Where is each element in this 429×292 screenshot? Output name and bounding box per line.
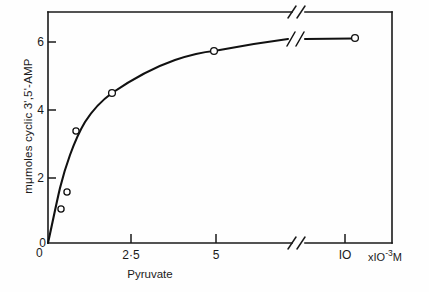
x-units-base: xIO bbox=[368, 251, 385, 263]
curve-break-slash-2 bbox=[296, 32, 304, 46]
x-units-exponent: -3 bbox=[385, 248, 393, 258]
data-point-marker bbox=[211, 48, 218, 55]
data-markers bbox=[58, 35, 359, 213]
y-axis-ticks bbox=[48, 42, 56, 178]
data-point-marker bbox=[73, 128, 79, 134]
x-tick-label-5: 5 bbox=[196, 248, 236, 262]
top-break-slash-2 bbox=[297, 6, 305, 18]
x-units-suffix: M bbox=[393, 251, 402, 263]
data-point-marker bbox=[64, 189, 70, 195]
curve-right-segment bbox=[305, 39, 353, 40]
curve-break-marks bbox=[287, 32, 304, 46]
plot-frame bbox=[48, 12, 392, 243]
y-tick-label-6: 6 bbox=[22, 35, 44, 49]
x-axis-title: Pyruvate bbox=[0, 268, 300, 280]
y-tick-label-2: 2 bbox=[22, 171, 44, 185]
x-tick-label-10: IO bbox=[325, 248, 365, 262]
x-axis-units: xIO-3M bbox=[368, 248, 402, 263]
x-axis-ticks bbox=[131, 234, 345, 243]
y-tick-label-4: 4 bbox=[22, 103, 44, 117]
bottom-break-slash-2 bbox=[297, 237, 305, 249]
axis-break-marks bbox=[288, 6, 305, 249]
data-point-marker bbox=[109, 90, 116, 97]
x-origin-label: 0 bbox=[36, 246, 43, 260]
x-tick-label-2-5: 2·5 bbox=[111, 248, 151, 262]
curve-main-segment bbox=[48, 39, 288, 243]
figure-container: mμmoles cyclic 3',5'-AMP 2 4 6 0 0 2·5 5… bbox=[0, 0, 429, 292]
data-curve bbox=[48, 39, 353, 244]
data-point-marker bbox=[58, 206, 64, 212]
data-point-marker bbox=[352, 35, 359, 42]
